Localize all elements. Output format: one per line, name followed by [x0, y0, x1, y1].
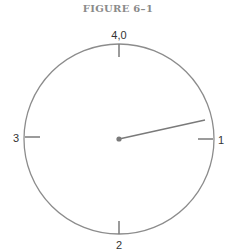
pointer-hand — [119, 120, 205, 139]
dial-diagram: 4,0 1 2 3 — [0, 0, 236, 252]
label-right: 1 — [218, 134, 224, 146]
label-left: 3 — [13, 132, 19, 144]
pointer-pivot — [116, 136, 121, 141]
label-bottom: 2 — [116, 239, 122, 251]
label-top: 4,0 — [111, 29, 126, 41]
